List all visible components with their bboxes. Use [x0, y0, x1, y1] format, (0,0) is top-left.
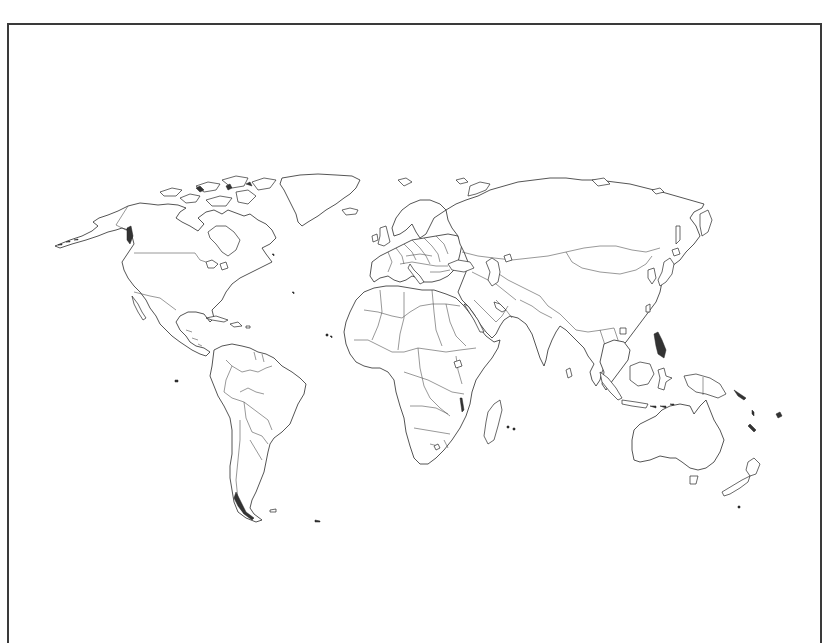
falkland-islands [270, 509, 276, 512]
franz-josef [456, 178, 468, 184]
svalbard [398, 178, 412, 186]
north-america [55, 176, 276, 356]
region-greenland [280, 174, 360, 226]
madagascar [484, 400, 502, 444]
new-caledonia [748, 424, 756, 432]
hainan [620, 328, 626, 334]
sulawesi [658, 368, 672, 390]
philippines [654, 332, 666, 358]
fiji [776, 412, 782, 418]
region-australia [632, 400, 724, 470]
south-america [210, 344, 306, 522]
java [622, 400, 648, 408]
new-zealand-south [722, 476, 750, 496]
vanuatu [752, 410, 754, 416]
great-britain [378, 226, 390, 246]
ireland [372, 234, 378, 242]
puerto-rico [246, 326, 250, 328]
borneo [630, 362, 654, 386]
new-guinea [684, 374, 726, 398]
region-south-america [210, 344, 306, 522]
hispaniola [230, 322, 242, 327]
arctic-islands [160, 176, 276, 206]
solomon-islands [734, 390, 746, 400]
baja-california [132, 296, 146, 320]
scandinavia [392, 200, 446, 238]
new-zealand-north [746, 458, 760, 476]
australia [632, 400, 724, 484]
cape-verde [326, 334, 332, 338]
sri-lanka [566, 368, 572, 378]
region-north-america [55, 203, 276, 356]
new-zealand [722, 458, 760, 496]
tasmania [690, 476, 698, 484]
greenland [280, 174, 360, 226]
iceland [342, 208, 358, 215]
kamchatka [700, 210, 712, 236]
